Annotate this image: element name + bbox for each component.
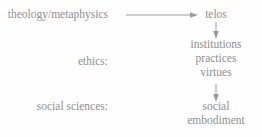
arrow-down-icon-telos-institutions: [206, 22, 226, 39]
node-practices: practices: [0, 52, 262, 65]
node-virtues: virtues: [0, 66, 262, 79]
node-institutions: institutions: [0, 38, 262, 51]
flow-diagram: theology/metaphysics ethics: social scie…: [0, 0, 262, 137]
arrow-right-icon: [126, 8, 198, 22]
node-embodiment: embodiment: [0, 114, 262, 127]
arrow-down-icon-virtues-social: [206, 84, 226, 102]
